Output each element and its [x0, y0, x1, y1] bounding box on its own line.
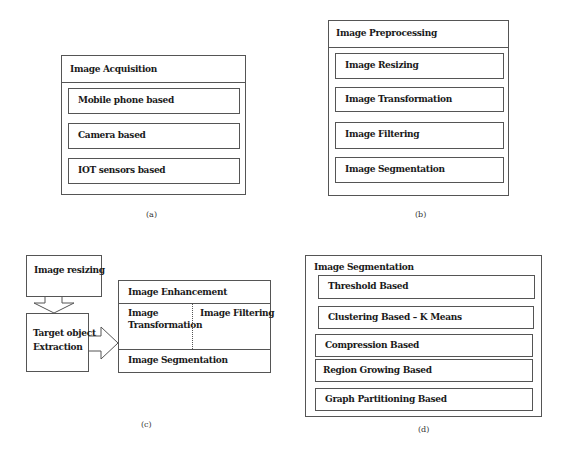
panel-c-target-object-extraction: Target object Extraction	[26, 313, 89, 372]
panel-c-filtering-label: Image Filtering	[200, 308, 274, 319]
down-arrow-icon	[34, 296, 74, 313]
panel-d-item-label: Compression Based	[325, 340, 419, 351]
panel-c-step2-label-line1: Target object	[33, 328, 96, 339]
panel-d-item-label: Region Growing Based	[323, 365, 432, 376]
panel-c-dotted-divider	[192, 303, 193, 349]
panel-c-transformation-label-line2: Transformation	[128, 320, 202, 331]
panel-c-enhancement-label: Image Enhancement	[128, 287, 227, 298]
panel-d-item-label: Clustering Based – K Means	[328, 312, 462, 323]
panel-d-item-graph-partitioning: Graph Partitioning Based	[315, 388, 533, 411]
panel-d-item-compression: Compression Based	[315, 334, 533, 357]
panel-c-divider-bottom	[119, 349, 270, 350]
panel-c-divider-top	[119, 303, 270, 304]
panel-c-step1-label: Image resizing	[34, 265, 105, 276]
panel-d-item-region-growing: Region Growing Based	[315, 359, 533, 382]
panel-c-processing-block: Image Enhancement Image Transformation I…	[118, 280, 271, 373]
panel-c-transformation-label-line1: Image	[128, 308, 158, 319]
panel-d-title: Image Segmentation	[314, 262, 414, 273]
panel-d-caption: (d)	[418, 425, 429, 434]
panel-d-item-threshold: Threshold Based	[318, 275, 535, 299]
panel-d-item-clustering: Clustering Based – K Means	[318, 306, 534, 329]
panel-d-item-label: Threshold Based	[328, 281, 408, 292]
panel-c-step2-label-line2: Extraction	[33, 342, 83, 353]
panel-c-caption: (c)	[141, 420, 152, 429]
panel-c-segmentation-label: Image Segmentation	[128, 355, 228, 366]
panel-c-image-resizing: Image resizing	[26, 255, 102, 297]
panel-d-item-label: Graph Partitioning Based	[325, 394, 447, 405]
